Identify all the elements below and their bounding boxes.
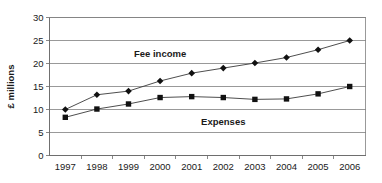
- marker-fee-income-2005: [315, 46, 322, 53]
- marker-expenses-2004: [284, 96, 289, 101]
- xtick-label-2002: 2002: [213, 161, 234, 172]
- ytick-label-25: 25: [33, 35, 44, 46]
- series-line-fee-income: [65, 41, 349, 110]
- xtick-label-1997: 1997: [55, 161, 76, 172]
- marker-expenses-1999: [126, 101, 131, 106]
- marker-fee-income-2002: [220, 65, 227, 72]
- marker-expenses-1998: [94, 106, 99, 111]
- xtick-label-2005: 2005: [308, 161, 329, 172]
- xtick-label-2006: 2006: [339, 161, 360, 172]
- marker-expenses-2000: [157, 95, 162, 100]
- xtick-label-2003: 2003: [244, 161, 265, 172]
- marker-expenses-1997: [63, 115, 68, 120]
- chart-figure: 0510152025301997199819992000200120022003…: [0, 0, 382, 183]
- xtick-label-2004: 2004: [276, 161, 297, 172]
- marker-expenses-2006: [347, 84, 352, 89]
- marker-expenses-2002: [221, 95, 226, 100]
- ytick-label-0: 0: [38, 150, 43, 161]
- xtick-label-2001: 2001: [181, 161, 202, 172]
- series-line-expenses: [65, 87, 349, 118]
- marker-fee-income-1997: [62, 106, 69, 113]
- marker-expenses-2003: [252, 97, 257, 102]
- xtick-label-1998: 1998: [86, 161, 107, 172]
- marker-fee-income-2003: [252, 60, 259, 67]
- marker-expenses-2005: [315, 91, 320, 96]
- marker-fee-income-2000: [157, 78, 164, 85]
- marker-fee-income-1999: [125, 88, 132, 95]
- marker-fee-income-2006: [346, 37, 353, 44]
- ytick-label-10: 10: [33, 104, 44, 115]
- marker-expenses-2001: [189, 94, 194, 99]
- annotation-expenses: Expenses: [201, 116, 245, 127]
- marker-fee-income-1998: [94, 91, 101, 98]
- annotation-fee-income: Fee income: [134, 48, 186, 59]
- line-chart: 0510152025301997199819992000200120022003…: [0, 0, 382, 183]
- ytick-label-5: 5: [38, 127, 43, 138]
- ytick-label-30: 30: [33, 12, 44, 23]
- marker-fee-income-2004: [283, 54, 290, 61]
- ytick-label-20: 20: [33, 58, 44, 69]
- xtick-label-1999: 1999: [118, 161, 139, 172]
- xtick-label-2000: 2000: [150, 161, 171, 172]
- y-axis-title: £ millions: [5, 65, 16, 109]
- ytick-label-15: 15: [33, 81, 44, 92]
- marker-fee-income-2001: [188, 70, 195, 77]
